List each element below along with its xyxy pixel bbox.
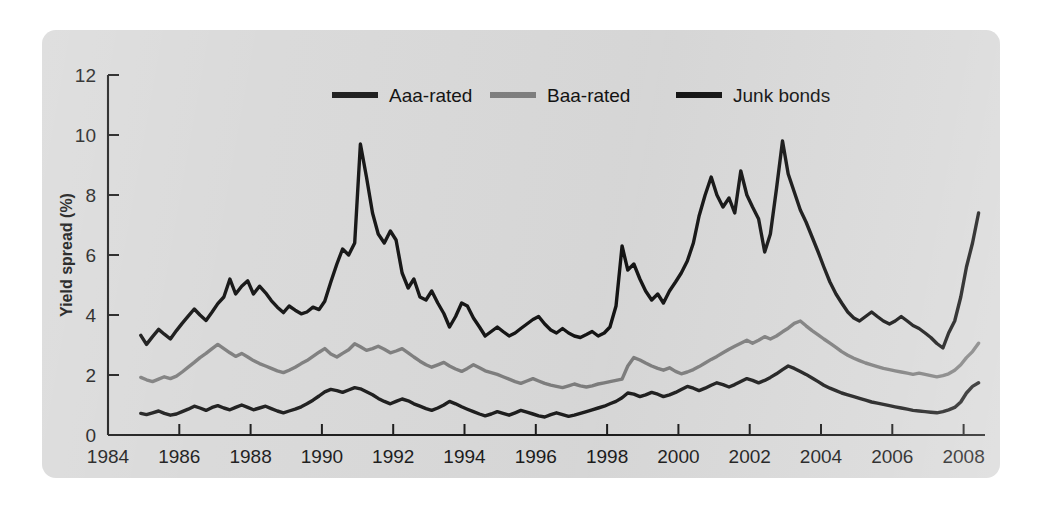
y-tick-label: 2 (85, 365, 96, 386)
x-tick-label: 1984 (87, 446, 130, 467)
x-tick-label: 1990 (301, 446, 343, 467)
x-tick-group: 1984198619881990199219941996199820002002… (87, 424, 985, 467)
chart-legend: Aaa-ratedBaa-ratedJunk bonds (332, 85, 830, 106)
legend-label-aaa: Aaa-rated (389, 85, 472, 106)
series-line-aaa (141, 366, 979, 417)
x-tick-label: 1998 (586, 446, 628, 467)
legend-label-junk: Junk bonds (733, 85, 830, 106)
y-tick-label: 4 (85, 305, 96, 326)
x-tick-label: 2000 (657, 446, 699, 467)
figure-container: 024681012 198419861988199019921994199619… (0, 0, 1062, 511)
x-tick-label: 1988 (229, 446, 271, 467)
x-tick-label: 1992 (372, 446, 414, 467)
y-tick-label: 6 (85, 245, 96, 266)
x-tick-label: 1994 (443, 446, 486, 467)
y-tick-label: 0 (85, 425, 96, 446)
legend-label-baa: Baa-rated (547, 85, 630, 106)
y-tick-label: 12 (75, 65, 96, 86)
x-tick-label: 2006 (871, 446, 913, 467)
y-axis-title: Yield spread (%) (58, 193, 75, 317)
y-axis-group: 024681012 (75, 65, 119, 446)
series-group (141, 141, 979, 417)
x-tick-label: 1986 (158, 446, 200, 467)
series-line-junk (141, 141, 979, 348)
y-tick-label: 10 (75, 125, 96, 146)
x-tick-label: 2002 (729, 446, 771, 467)
x-tick-label: 2004 (800, 446, 843, 467)
y-tick-group: 024681012 (75, 65, 119, 446)
y-tick-label: 8 (85, 185, 96, 206)
x-tick-label: 2008 (942, 446, 984, 467)
x-axis-group: 1984198619881990199219941996199820002002… (87, 424, 985, 467)
chart-plot: 024681012 198419861988199019921994199619… (0, 0, 1062, 511)
x-tick-label: 1996 (515, 446, 557, 467)
